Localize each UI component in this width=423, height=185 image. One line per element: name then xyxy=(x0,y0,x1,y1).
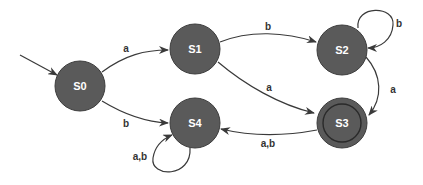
state-label-s3: S3 xyxy=(335,117,348,129)
diagram-svg: a b b a b a a,b a,b S0 S1 S2 S3 S4 xyxy=(0,0,423,185)
edge-label-s0-s4: b xyxy=(123,118,129,129)
edge-label-s0-s1: a xyxy=(123,43,129,54)
state-label-s1: S1 xyxy=(188,43,201,55)
edge-s0-s1 xyxy=(102,50,168,72)
edge-label-s2-s3: a xyxy=(390,84,396,95)
edge-s2-s3 xyxy=(366,57,379,115)
state-label-s4: S4 xyxy=(188,117,202,129)
edge-label-s1-s3: a xyxy=(266,82,272,93)
state-label-s2: S2 xyxy=(335,44,348,56)
state-s3-accept: S3 xyxy=(317,98,367,148)
edge-label-s1-s2: b xyxy=(265,21,271,32)
state-s1: S1 xyxy=(170,24,220,74)
state-s4: S4 xyxy=(170,98,220,148)
edge-label-s3-s4: a,b xyxy=(261,138,275,149)
edge-s0-s4 xyxy=(102,101,168,123)
state-diagram: a b b a b a a,b a,b S0 S1 S2 S3 S4 xyxy=(0,0,423,185)
edge-s1-s2 xyxy=(220,34,316,42)
edge-label-s4-loop: a,b xyxy=(133,151,147,162)
start-arrow xyxy=(20,55,57,75)
edge-label-s2-loop: b xyxy=(396,18,402,29)
state-s0: S0 xyxy=(55,61,105,111)
edge-s3-s4 xyxy=(221,129,317,134)
state-s2: S2 xyxy=(317,25,367,75)
state-label-s0: S0 xyxy=(73,80,86,92)
